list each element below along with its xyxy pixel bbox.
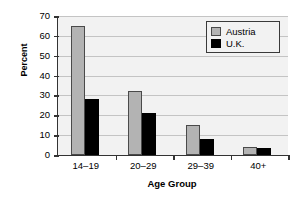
x-axis-title: Age Group [57,178,287,189]
legend-item-uk: U.K. [211,37,275,49]
y-axis-tick-label: 40 [26,71,50,81]
gridline [58,56,288,57]
bar-austria-3 [243,147,257,155]
y-axis-tick-mark [54,36,59,38]
y-axis-tick-mark [54,95,59,97]
legend-label-austria: Austria [226,26,256,37]
y-axis-tick-label: 20 [26,110,50,120]
bar-austria-2 [186,125,200,155]
x-axis-tick-labels: 14–1920–2929–3940+ [57,160,287,174]
bar-uk-3 [257,148,271,155]
y-axis-tick-label: 0 [26,150,50,160]
legend-label-uk: U.K. [226,38,244,49]
y-axis-tick-label: 60 [26,31,50,41]
y-axis-tick-label: 10 [26,130,50,140]
x-axis-tick-label: 29–39 [188,160,214,172]
x-axis-tick-mark [288,155,290,160]
x-axis-tick-label: 40+ [250,160,266,172]
y-axis-tick-label: 50 [26,51,50,61]
gridline [58,76,288,77]
bar-uk-1 [142,113,156,155]
chart-legend: Austria U.K. [206,21,280,53]
legend-swatch-austria [211,27,221,36]
gridline [58,16,288,17]
y-axis-tick-label: 30 [26,90,50,100]
bar-uk-0 [85,99,99,155]
bar-austria-1 [128,91,142,155]
gridline [58,95,288,96]
y-axis-tick-mark [54,115,59,117]
y-axis-tick-mark [54,56,59,58]
y-axis-tick-mark [54,135,59,137]
y-axis-tick-labels: 706050403020100 [26,16,50,155]
bar-austria-0 [71,26,85,155]
y-axis-tick-mark [54,76,59,78]
bar-uk-2 [200,139,214,155]
legend-swatch-uk [211,39,221,48]
y-axis-tick-mark [54,16,59,18]
y-axis-tick-label: 70 [26,11,50,21]
y-axis-tick-mark [54,155,59,157]
legend-item-austria: Austria [211,25,275,37]
bar-chart: Percent 706050403020100 14–1920–2929–394… [0,0,301,202]
x-axis-tick-label: 20–29 [130,160,156,172]
x-axis-tick-label: 14–19 [73,160,99,172]
